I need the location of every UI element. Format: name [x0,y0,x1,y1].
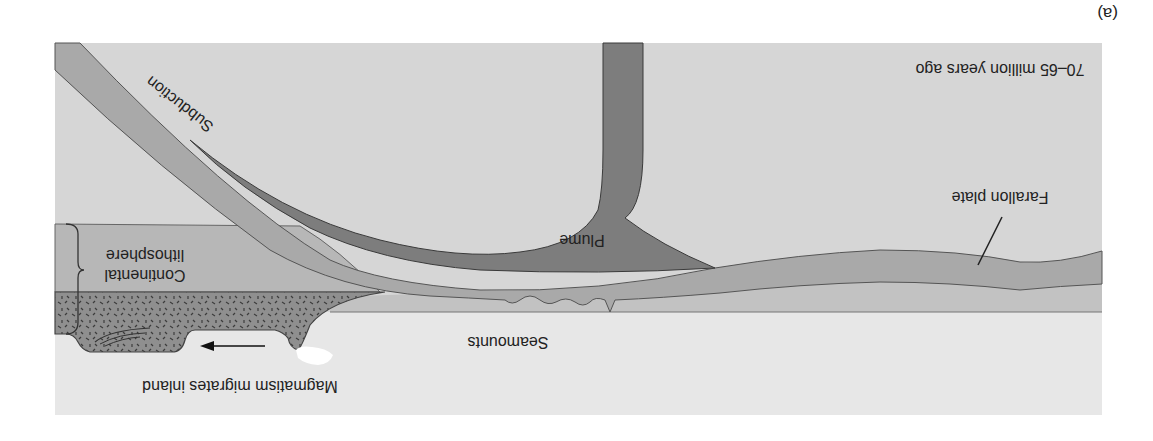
seamounts-label: Seamounts [468,334,549,351]
plume-label: Plume [559,232,604,249]
magmatism-label: Magmatism migrates inland [142,378,338,395]
panel-label: (a) [1097,4,1118,23]
time-label: 70–65 million years ago [915,61,1084,78]
tectonic-diagram: (a) 70–65 million years ago Subduction P… [0,0,1153,441]
continental-label-line1: Continental [105,267,186,284]
farallon-plate-label: Farallon plate [951,189,1048,206]
continental-label-line2: lithosphere [106,247,184,264]
